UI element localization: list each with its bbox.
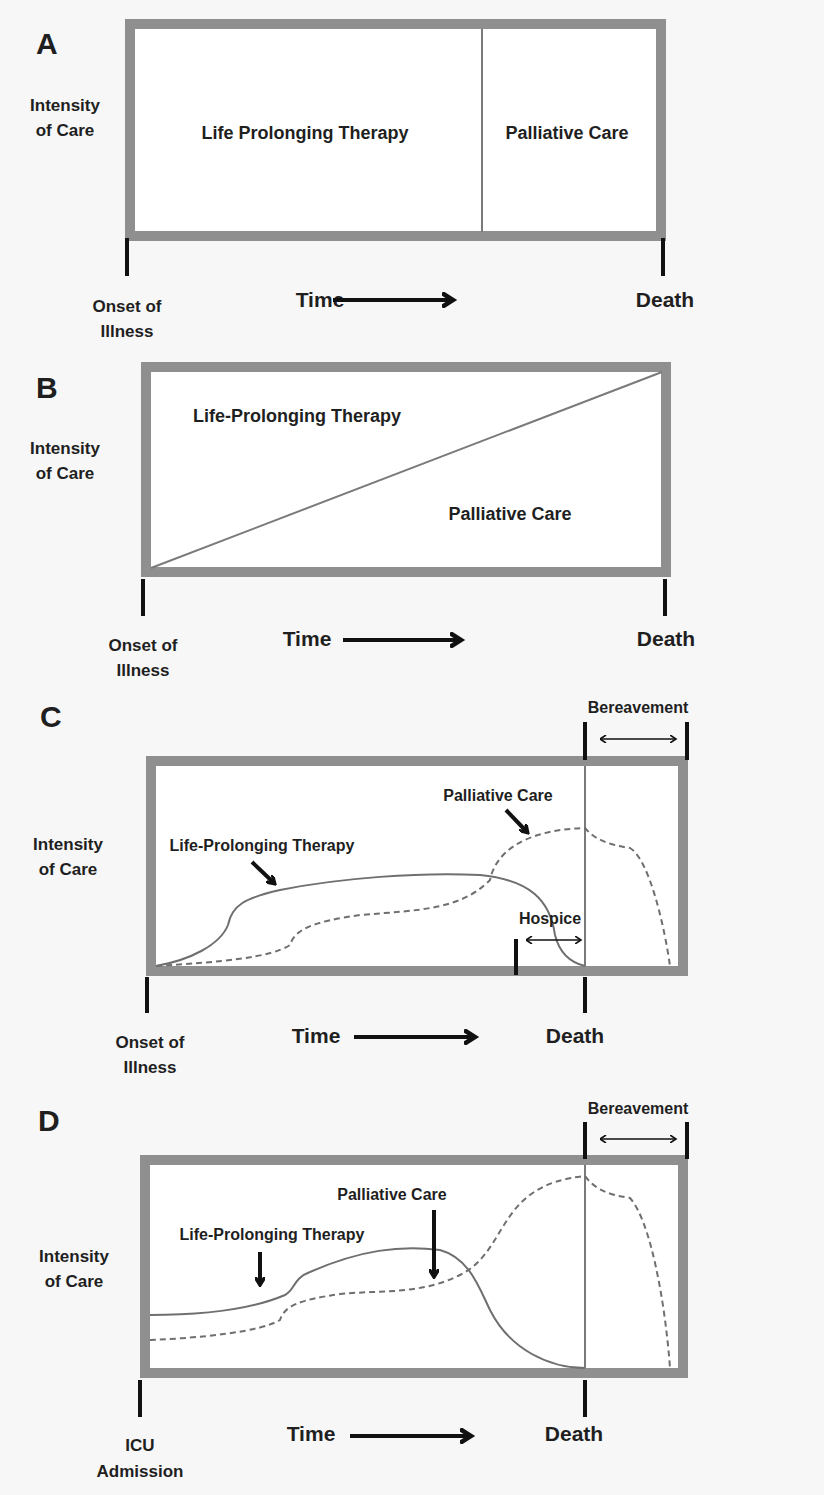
- end-label: Death: [636, 288, 694, 311]
- interval-label-hospice: Hospice: [519, 910, 581, 927]
- start-label-line2: Illness: [117, 661, 170, 680]
- interval-label-bereavement: Bereavement: [588, 699, 689, 716]
- time-label: Time: [283, 627, 332, 650]
- interval-label-bereavement: Bereavement: [588, 1100, 689, 1117]
- y-axis-label-line1: Intensity: [39, 1247, 109, 1266]
- start-label-line1: Onset of: [109, 636, 178, 655]
- curve-label-life-prolonging: Life-Prolonging Therapy: [170, 837, 355, 854]
- y-axis-label-line2: of Care: [45, 1272, 104, 1291]
- start-label-line1: Onset of: [93, 297, 162, 316]
- time-label: Time: [292, 1024, 341, 1047]
- curve-label-palliative: Palliative Care: [443, 787, 553, 804]
- start-label-line2: Illness: [124, 1058, 177, 1077]
- end-label: Death: [545, 1422, 603, 1445]
- y-axis-label-line1: Intensity: [33, 835, 103, 854]
- region-label-palliative: Palliative Care: [505, 123, 628, 143]
- end-label: Death: [637, 627, 695, 650]
- region-label-palliative: Palliative Care: [448, 504, 571, 524]
- panel-letter: B: [36, 371, 58, 404]
- y-axis-label-line1: Intensity: [30, 439, 100, 458]
- y-axis-label-line2: of Care: [39, 860, 98, 879]
- curve-label-life-prolonging: Life-Prolonging Therapy: [180, 1226, 365, 1243]
- curve-label-palliative: Palliative Care: [337, 1186, 447, 1203]
- end-label: Death: [546, 1024, 604, 1047]
- panel-d: D Intensity of Care Life-Prolonging Ther…: [38, 1100, 689, 1481]
- panel-letter: A: [36, 27, 58, 60]
- care-frame: [151, 761, 683, 971]
- region-label-life-prolonging: Life Prolonging Therapy: [201, 123, 408, 143]
- figure-canvas: A Intensity of Care Life Prolonging Ther…: [0, 0, 824, 1495]
- region-label-life-prolonging: Life-Prolonging Therapy: [193, 406, 401, 426]
- panel-c: C Intensity of Care Life-Prolonging Ther…: [33, 699, 689, 1077]
- start-label-line1: ICU: [125, 1436, 154, 1455]
- panel-letter: D: [38, 1104, 60, 1137]
- start-label-line2: Illness: [101, 322, 154, 341]
- panel-letter: C: [40, 700, 62, 733]
- start-label-line2: Admission: [97, 1462, 184, 1481]
- panel-a: A Intensity of Care Life Prolonging Ther…: [30, 24, 694, 341]
- panel-b: B Intensity of Care Life-Prolonging Ther…: [30, 367, 695, 680]
- y-axis-label-line2: of Care: [36, 464, 95, 483]
- start-label-line1: Onset of: [116, 1033, 185, 1052]
- y-axis-label-line2: of Care: [36, 121, 95, 140]
- y-axis-label-line1: Intensity: [30, 96, 100, 115]
- time-label: Time: [287, 1422, 336, 1445]
